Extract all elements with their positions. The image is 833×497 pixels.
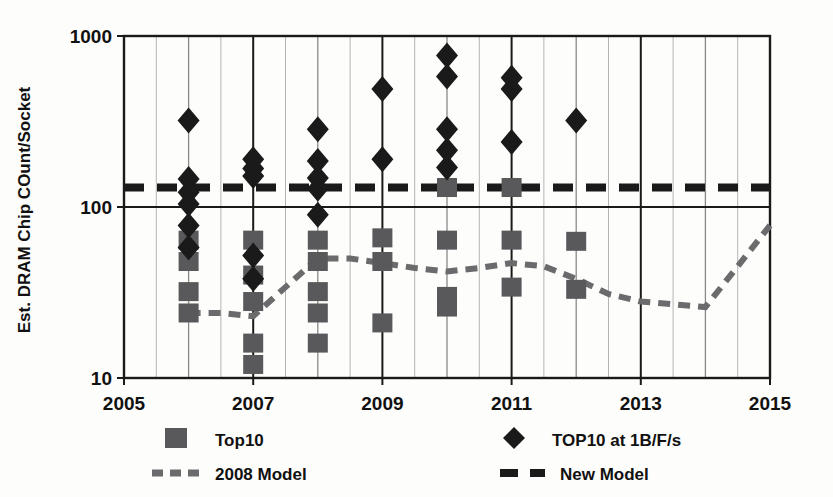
dram-chip-count-chart: 101001000 200520072009201120132015 Est. … — [0, 0, 833, 497]
data-point-square — [308, 231, 328, 250]
data-point-square — [308, 282, 328, 301]
data-point-square — [243, 292, 263, 311]
x-tick-label: 2005 — [103, 393, 146, 414]
data-point-square — [502, 278, 522, 297]
y-tick-label: 1000 — [70, 26, 112, 47]
data-point-square — [243, 334, 263, 353]
legend-label-2008-model: 2008 Model — [215, 465, 307, 484]
legend-square-marker-icon — [165, 428, 187, 448]
data-point-square — [308, 252, 328, 271]
data-point-square — [179, 282, 199, 301]
legend-label-top10-bfs: TOP10 at 1B/F/s — [552, 431, 681, 450]
y-tick-label: 100 — [80, 197, 112, 218]
data-point-square — [566, 232, 586, 251]
y-axis-title: Est. DRAM Chip COunt/Socket — [15, 86, 34, 333]
data-point-square — [437, 231, 457, 250]
x-tick-label: 2007 — [232, 393, 274, 414]
data-point-square — [437, 178, 457, 197]
x-tick-label: 2013 — [620, 393, 662, 414]
data-point-square — [372, 228, 392, 247]
x-tick-label: 2009 — [361, 393, 403, 414]
data-point-square — [179, 303, 199, 322]
y-tick-label: 10 — [91, 368, 112, 389]
data-point-square — [308, 334, 328, 353]
data-point-square — [308, 303, 328, 322]
x-tick-label: 2011 — [491, 393, 533, 414]
data-point-square — [502, 231, 522, 250]
x-tick-label: 2015 — [749, 393, 792, 414]
data-point-square — [502, 178, 522, 197]
legend-label-new-model: New Model — [560, 465, 649, 484]
data-point-square — [372, 252, 392, 271]
legend-label-top10: Top10 — [215, 431, 264, 450]
data-point-square — [243, 355, 263, 374]
data-point-square — [566, 280, 586, 299]
data-point-square — [437, 298, 457, 317]
data-point-square — [372, 313, 392, 332]
